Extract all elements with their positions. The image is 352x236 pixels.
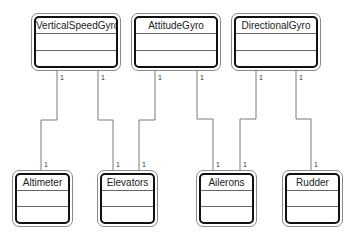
assoc-directional-rudder	[296, 71, 311, 170]
class-box: Ailerons	[199, 173, 254, 224]
class-name: VerticalSpeedGyro	[36, 18, 116, 34]
class-rudder[interactable]: Rudder	[282, 170, 343, 227]
class-vertical-speed-gyro[interactable]: VerticalSpeedGyro	[31, 13, 121, 71]
assoc-directional-ailerons	[240, 71, 256, 170]
attributes-compartment	[102, 191, 153, 207]
class-ailerons[interactable]: Ailerons	[196, 170, 257, 227]
mult-vsg-altimeter-to: 1	[44, 161, 48, 168]
uml-class-diagram: 1 1 1 1 1 1 1 1 1 1 1 1 VerticalSpeedGyr…	[0, 0, 352, 236]
attributes-compartment	[201, 191, 252, 207]
mult-attitude-elevators-from: 1	[158, 74, 162, 81]
mult-vsg-elevators-from: 1	[101, 74, 105, 81]
attributes-compartment	[236, 34, 316, 51]
attributes-compartment	[136, 34, 216, 51]
mult-attitude-elevators-to: 1	[142, 161, 146, 168]
assoc-vsg-altimeter	[41, 71, 57, 170]
mult-vsg-elevators-to: 1	[116, 161, 120, 168]
assoc-attitude-ailerons	[197, 71, 213, 170]
operations-compartment	[287, 207, 338, 222]
assoc-vsg-elevators	[98, 71, 113, 170]
class-name: Ailerons	[201, 175, 252, 191]
class-box: Altimeter	[15, 173, 70, 224]
class-name: Elevators	[102, 175, 153, 191]
mult-attitude-ailerons-to: 1	[216, 161, 220, 168]
attributes-compartment	[36, 34, 116, 51]
class-name: AttitudeGyro	[136, 18, 216, 34]
attributes-compartment	[287, 191, 338, 207]
class-attitude-gyro[interactable]: AttitudeGyro	[131, 13, 221, 71]
class-name: Rudder	[287, 175, 338, 191]
assoc-attitude-elevators	[139, 71, 155, 170]
class-box: Elevators	[100, 173, 155, 224]
class-directional-gyro[interactable]: DirectionalGyro	[231, 13, 321, 71]
class-name: DirectionalGyro	[236, 18, 316, 34]
mult-directional-ailerons-to: 1	[243, 161, 247, 168]
operations-compartment	[17, 207, 68, 222]
class-box: VerticalSpeedGyro	[34, 16, 118, 68]
class-box: DirectionalGyro	[234, 16, 318, 68]
mult-directional-rudder-from: 1	[299, 74, 303, 81]
mult-attitude-ailerons-from: 1	[200, 74, 204, 81]
operations-compartment	[36, 51, 116, 67]
class-box: Rudder	[285, 173, 340, 224]
class-name: Altimeter	[17, 175, 68, 191]
class-elevators[interactable]: Elevators	[97, 170, 158, 227]
mult-directional-rudder-to: 1	[314, 161, 318, 168]
operations-compartment	[236, 51, 316, 67]
attributes-compartment	[17, 191, 68, 207]
mult-vsg-altimeter-from: 1	[60, 74, 64, 81]
operations-compartment	[201, 207, 252, 222]
class-altimeter[interactable]: Altimeter	[12, 170, 73, 227]
operations-compartment	[136, 51, 216, 67]
mult-directional-ailerons-from: 1	[259, 74, 263, 81]
class-box: AttitudeGyro	[134, 16, 218, 68]
operations-compartment	[102, 207, 153, 222]
